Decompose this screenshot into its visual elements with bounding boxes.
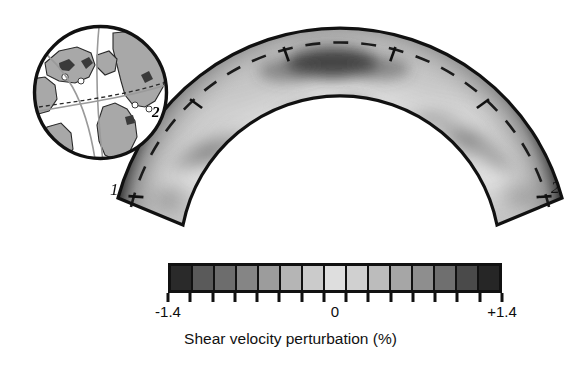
colorbar-cell-3	[237, 266, 259, 290]
colorbar-cell-12	[435, 266, 457, 290]
colorbar-label-min: -1.4	[155, 303, 181, 320]
colorbar-tick-1	[189, 293, 192, 302]
colorbar-group: -1.4 0 +1.4	[168, 263, 502, 323]
colorbar-label-max: +1.4	[487, 303, 517, 320]
figure-root: 2 1 2 -1.4 0 +1.4 Shear velocity perturb…	[0, 0, 581, 374]
colorbar-label-center: 0	[331, 303, 339, 320]
colorbar-cell-6	[303, 266, 325, 290]
section-endpoint-label-2: 2	[551, 179, 560, 196]
colorbar-cell-11	[413, 266, 435, 290]
colorbar-tick-13	[456, 293, 459, 302]
colorbar-tick-7	[322, 293, 325, 302]
colorbar-tick-10	[389, 293, 392, 302]
colorbar-tick-15	[501, 293, 504, 302]
colorbar-tick-12	[434, 293, 437, 302]
colorbar-tick-5	[278, 293, 281, 302]
colorbar-cell-10	[391, 266, 413, 290]
colorbar-tick-11	[411, 293, 414, 302]
section-endpoint-label-1: 1	[110, 181, 119, 198]
colorbar-cell-9	[369, 266, 391, 290]
colorbar-tick-6	[300, 293, 303, 302]
globe-inset	[29, 21, 172, 164]
colorbar-cell-4	[259, 266, 281, 290]
colorbar-tick-marks	[168, 293, 502, 302]
tomography-field	[100, 0, 580, 262]
colorbar-cell-8	[347, 266, 369, 290]
colorbar-cell-0	[171, 266, 193, 290]
colorbar-tick-4	[256, 293, 259, 302]
colorbar	[168, 263, 502, 293]
colorbar-caption: Shear velocity perturbation (%)	[0, 330, 581, 348]
colorbar-tick-labels: -1.4 0 +1.4	[168, 303, 502, 323]
colorbar-cell-5	[281, 266, 303, 290]
colorbar-cell-13	[457, 266, 479, 290]
colorbar-cell-1	[193, 266, 215, 290]
colorbar-tick-8	[345, 293, 348, 302]
colorbar-tick-0	[167, 293, 170, 302]
colorbar-cell-14	[479, 266, 499, 290]
colorbar-tick-14	[478, 293, 481, 302]
colorbar-cell-2	[215, 266, 237, 290]
colorbar-tick-9	[367, 293, 370, 302]
globe-endpoint-label-2: 2	[152, 105, 160, 120]
colorbar-tick-2	[211, 293, 214, 302]
colorbar-cell-7	[325, 266, 347, 290]
colorbar-tick-3	[233, 293, 236, 302]
